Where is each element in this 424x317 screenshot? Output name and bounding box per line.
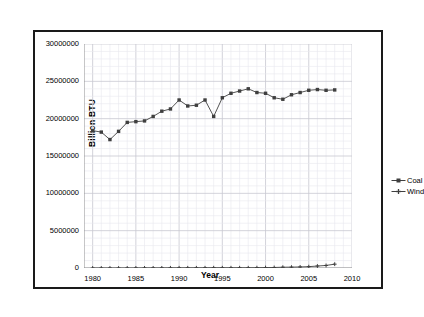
data-point-wind bbox=[281, 265, 285, 268]
legend-label: Coal bbox=[407, 176, 422, 185]
legend-cross-marker-icon bbox=[391, 187, 406, 196]
data-point-coal bbox=[298, 91, 301, 94]
data-point-coal bbox=[316, 88, 319, 91]
data-point-wind bbox=[246, 266, 250, 268]
data-point-wind bbox=[134, 266, 138, 268]
data-point-wind bbox=[229, 266, 233, 268]
data-point-wind bbox=[151, 266, 155, 268]
data-point-coal bbox=[255, 91, 258, 94]
data-point-wind bbox=[125, 266, 129, 268]
data-point-wind bbox=[220, 266, 224, 268]
chart-figure: Billion BTU Year 05000000100000001500000… bbox=[33, 30, 383, 289]
data-point-wind bbox=[194, 266, 198, 268]
x-tick-label: 1985 bbox=[116, 274, 156, 283]
data-point-coal bbox=[126, 121, 129, 124]
data-point-coal bbox=[290, 93, 293, 96]
data-point-wind bbox=[238, 266, 242, 268]
data-point-coal bbox=[238, 89, 241, 92]
data-point-coal bbox=[108, 138, 111, 141]
legend-item-wind[interactable]: Wind bbox=[391, 186, 424, 197]
legend-label: Wind bbox=[407, 187, 424, 196]
data-point-coal bbox=[91, 129, 94, 132]
data-point-wind bbox=[333, 262, 337, 266]
x-tick-label: 1990 bbox=[159, 274, 199, 283]
data-point-coal bbox=[169, 107, 172, 110]
data-point-wind bbox=[264, 266, 268, 268]
data-point-coal bbox=[281, 98, 284, 101]
data-point-coal bbox=[186, 104, 189, 107]
data-point-coal bbox=[160, 110, 163, 113]
data-point-coal bbox=[117, 130, 120, 133]
chart-canvas bbox=[84, 44, 352, 268]
plot-area bbox=[84, 44, 352, 268]
data-point-coal bbox=[203, 98, 206, 101]
data-point-wind bbox=[186, 266, 190, 268]
data-point-coal bbox=[324, 89, 327, 92]
data-point-wind bbox=[212, 266, 216, 268]
data-point-coal bbox=[264, 92, 267, 95]
data-point-wind bbox=[99, 266, 103, 268]
y-tick-label: 0 bbox=[19, 263, 79, 272]
data-point-coal bbox=[221, 96, 224, 99]
data-point-coal bbox=[143, 119, 146, 122]
data-point-wind bbox=[307, 265, 311, 268]
x-tick-label: 2000 bbox=[246, 274, 286, 283]
y-tick-label: 20000000 bbox=[19, 114, 79, 123]
data-point-wind bbox=[108, 266, 112, 268]
data-point-coal bbox=[247, 87, 250, 90]
data-point-coal bbox=[272, 96, 275, 99]
data-point-wind bbox=[169, 266, 173, 268]
y-tick-label: 30000000 bbox=[19, 39, 79, 48]
data-point-wind bbox=[324, 264, 328, 268]
data-point-wind bbox=[203, 266, 207, 268]
data-point-wind bbox=[255, 266, 259, 268]
chart-legend: CoalWind bbox=[391, 175, 424, 197]
y-tick-label: 15000000 bbox=[19, 151, 79, 160]
x-tick-label: 1980 bbox=[73, 274, 113, 283]
x-tick-label: 2005 bbox=[289, 274, 329, 283]
data-point-coal bbox=[134, 120, 137, 123]
y-tick-label: 5000000 bbox=[19, 226, 79, 235]
data-point-wind bbox=[117, 266, 121, 268]
y-tick-label: 25000000 bbox=[19, 76, 79, 85]
data-point-coal bbox=[212, 115, 215, 118]
data-point-coal bbox=[333, 88, 336, 91]
data-point-coal bbox=[177, 98, 180, 101]
x-tick-label: 2010 bbox=[332, 274, 372, 283]
data-point-wind bbox=[143, 266, 147, 268]
data-point-wind bbox=[290, 265, 294, 268]
y-tick-label: 10000000 bbox=[19, 188, 79, 197]
x-tick-label: 1995 bbox=[202, 274, 242, 283]
data-point-coal bbox=[195, 104, 198, 107]
data-point-coal bbox=[229, 92, 232, 95]
data-point-wind bbox=[316, 264, 320, 268]
data-point-coal bbox=[307, 89, 310, 92]
data-point-coal bbox=[100, 130, 103, 133]
data-point-wind bbox=[177, 266, 181, 268]
data-point-wind bbox=[160, 266, 164, 268]
data-point-wind bbox=[91, 266, 95, 268]
legend-item-coal[interactable]: Coal bbox=[391, 175, 424, 186]
data-point-wind bbox=[272, 266, 276, 268]
legend-square-marker-icon bbox=[391, 176, 406, 185]
data-point-coal bbox=[151, 115, 154, 118]
gridlines bbox=[84, 44, 352, 268]
